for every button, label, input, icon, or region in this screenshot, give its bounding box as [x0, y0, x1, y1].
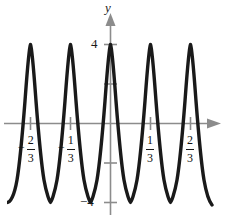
- x-label-neg-two-thirds-fraction: 2 3: [26, 133, 36, 166]
- x-label-one-third: 1 3: [145, 133, 155, 166]
- y-label-four: 4: [91, 37, 98, 50]
- fraction-numerator: 1: [66, 133, 76, 148]
- fraction-denominator: 3: [145, 151, 155, 166]
- fraction-denominator: 3: [26, 151, 36, 166]
- x-label-two-thirds: 2 3: [185, 133, 195, 166]
- fraction-numerator: 2: [185, 133, 195, 148]
- fraction-bar: [27, 149, 35, 150]
- x-label-two-thirds-fraction: 2 3: [185, 133, 195, 166]
- x-label-neg-two-thirds-sign: −: [18, 133, 26, 155]
- graph-svg: [0, 0, 227, 216]
- y-label-neg-four: −4: [80, 195, 94, 208]
- y-axis-label: y: [105, 1, 111, 14]
- fraction-bar: [186, 149, 194, 150]
- x-label-neg-one-third-sign: −: [58, 133, 66, 155]
- fraction-bar: [67, 149, 75, 150]
- fraction-numerator: 2: [26, 133, 36, 148]
- x-label-neg-one-third-fraction: 1 3: [66, 133, 76, 166]
- x-label-neg-one-third: − 1 3: [58, 133, 76, 166]
- x-label-one-third-fraction: 1 3: [145, 133, 155, 166]
- cosine-curve: [7, 45, 212, 206]
- fraction-numerator: 1: [145, 133, 155, 148]
- fraction-denominator: 3: [66, 151, 76, 166]
- fraction-bar: [146, 149, 154, 150]
- fraction-denominator: 3: [185, 151, 195, 166]
- figure-canvas: y 4 −4 − 2 3 − 1 3 1 3 2 3: [0, 0, 227, 216]
- x-label-neg-two-thirds: − 2 3: [18, 133, 36, 166]
- x-axis-arrowhead: [207, 119, 221, 129]
